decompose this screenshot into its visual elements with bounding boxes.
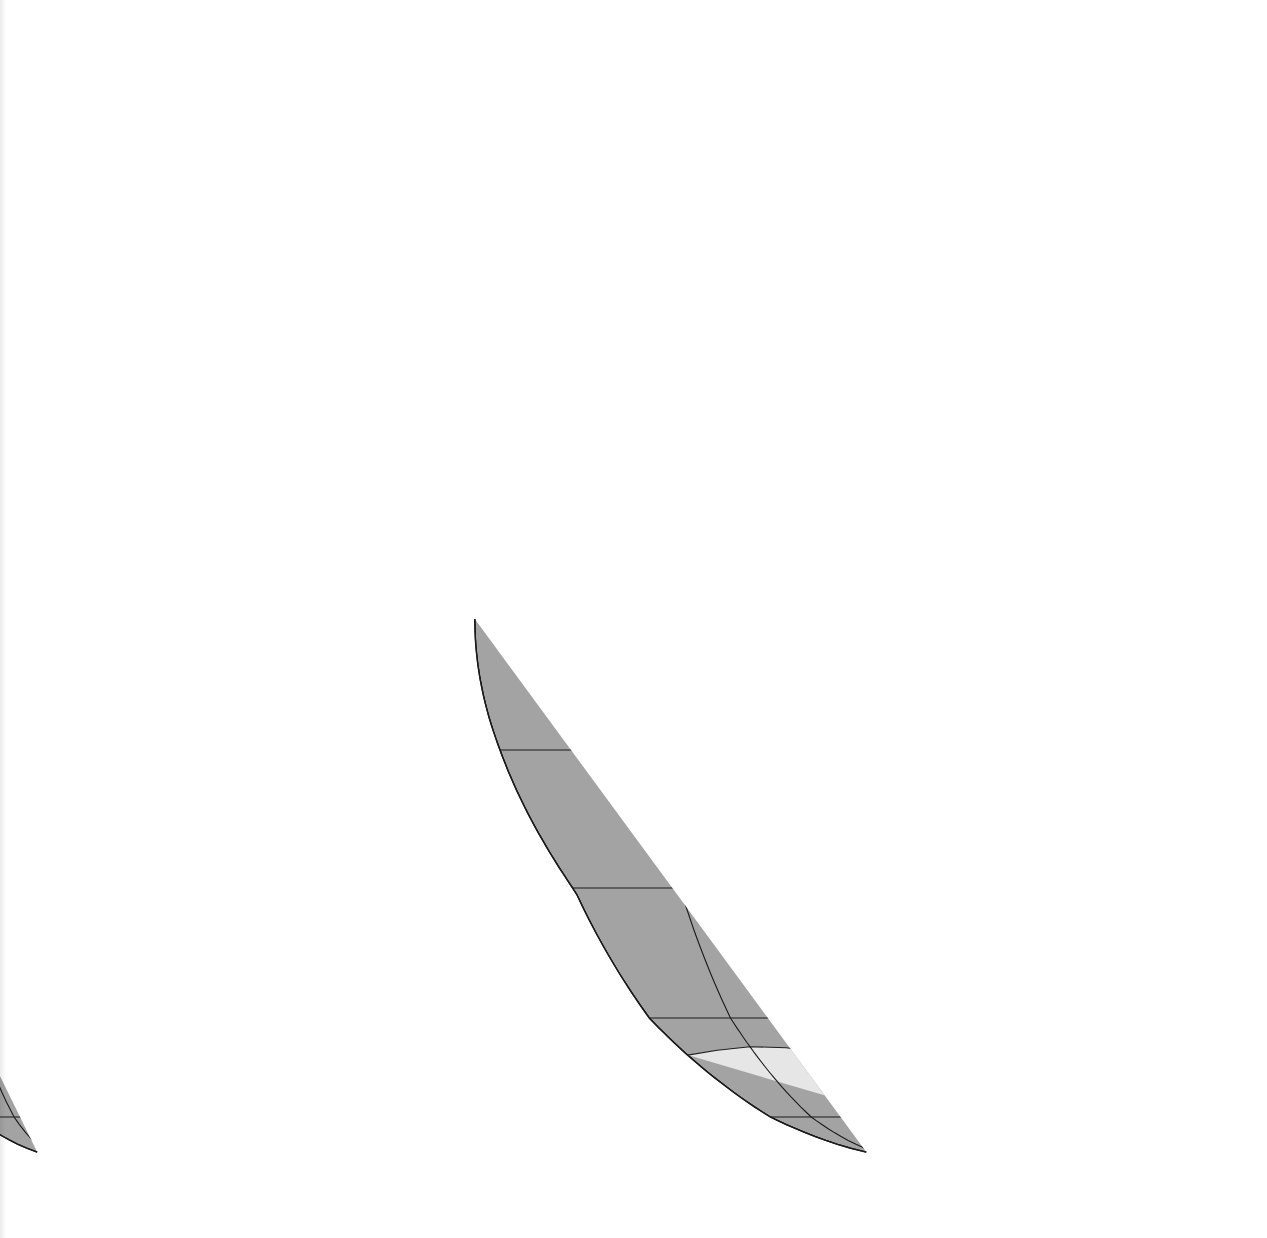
land-philippines-mindanao <box>759 556 791 581</box>
water-caspian-sea <box>192 312 241 376</box>
meridian-180 <box>168 74 1170 619</box>
land-kamchatka-east <box>618 217 694 282</box>
water-white-sea <box>101 191 132 203</box>
land-java <box>645 661 707 676</box>
meridian-160 <box>154 74 1031 619</box>
land-sulawesi <box>749 616 790 656</box>
land-madagascar <box>254 698 306 788</box>
land-borneo <box>675 574 744 623</box>
meridian-180 <box>921 619 1172 1148</box>
land-korea <box>621 358 678 392</box>
water-lake-baikal <box>443 249 452 278</box>
land-new-zealand-south <box>1026 891 1073 931</box>
land-sulawesi <box>743 616 788 656</box>
meridian-160 <box>907 619 1032 1148</box>
land-europe <box>0 239 105 382</box>
land-philippines-visayas <box>752 537 779 557</box>
land-arabia-middle-east <box>89 269 681 611</box>
meridian-80 <box>97 74 473 619</box>
land-sulawesi <box>746 610 788 623</box>
land-sumatra <box>582 616 657 658</box>
scan-edge-shading <box>0 0 6 1238</box>
southeast-lobe <box>0 616 1172 1152</box>
land-sumatra <box>580 616 654 658</box>
water-aral-sea <box>249 312 266 332</box>
meridian-140 <box>140 74 892 619</box>
land-antarctica-sw <box>0 1050 260 1077</box>
land-japan-honshu <box>691 346 740 396</box>
land-africa <box>0 616 272 852</box>
water-black-sea <box>97 308 168 347</box>
land-sakhalin <box>602 260 668 315</box>
land-africa <box>0 374 268 623</box>
world-map <box>0 0 1267 1238</box>
land-russia-central-asia <box>59 140 694 384</box>
land-madagascar <box>205 698 260 788</box>
meridian-0 <box>0 619 41 1148</box>
land-new-zealand-north <box>1075 850 1106 896</box>
meridian-60 <box>83 619 333 1148</box>
land-japan-hokkaido <box>664 318 702 344</box>
water-lake-victoria <box>137 617 152 636</box>
water-gulf-of-bothnia <box>45 195 73 221</box>
land-new-guinea <box>826 624 951 688</box>
land-new-zealand-north <box>867 850 932 896</box>
land-philippines-luzon <box>719 497 760 533</box>
land-sri-lanka <box>467 555 483 579</box>
land-new-guinea <box>828 624 967 688</box>
meridian-0 <box>0 74 41 619</box>
land-sumatra <box>577 582 654 622</box>
land-scandinavia <box>0 170 96 252</box>
land-australia <box>722 689 976 882</box>
meridian-120 <box>126 74 752 619</box>
land-borneo <box>677 616 748 646</box>
land-japan-kyushu <box>693 395 716 414</box>
land-java <box>653 661 717 676</box>
land-hainan <box>640 486 652 499</box>
land-taiwan <box>695 452 707 474</box>
southwest-lobe <box>0 616 951 1152</box>
water-baltic-gulf <box>63 220 94 228</box>
land-tasmania <box>707 893 732 912</box>
meridian-40 <box>69 74 194 619</box>
meridian-60 <box>83 74 333 619</box>
meridian-80 <box>97 619 473 1148</box>
land-antarctica-se <box>260 1047 510 1133</box>
land-new-zealand-south <box>787 891 866 931</box>
land-borneo <box>675 616 746 646</box>
northern-hemisphere-lobe <box>0 74 1170 636</box>
land-tasmania <box>917 893 937 912</box>
land-africa <box>0 616 274 852</box>
interrupted-world-map-svg <box>0 0 1267 1238</box>
meridian-40 <box>69 619 194 1148</box>
land-antarctica-sw <box>416 1050 688 1077</box>
meridian-100 <box>112 74 613 619</box>
